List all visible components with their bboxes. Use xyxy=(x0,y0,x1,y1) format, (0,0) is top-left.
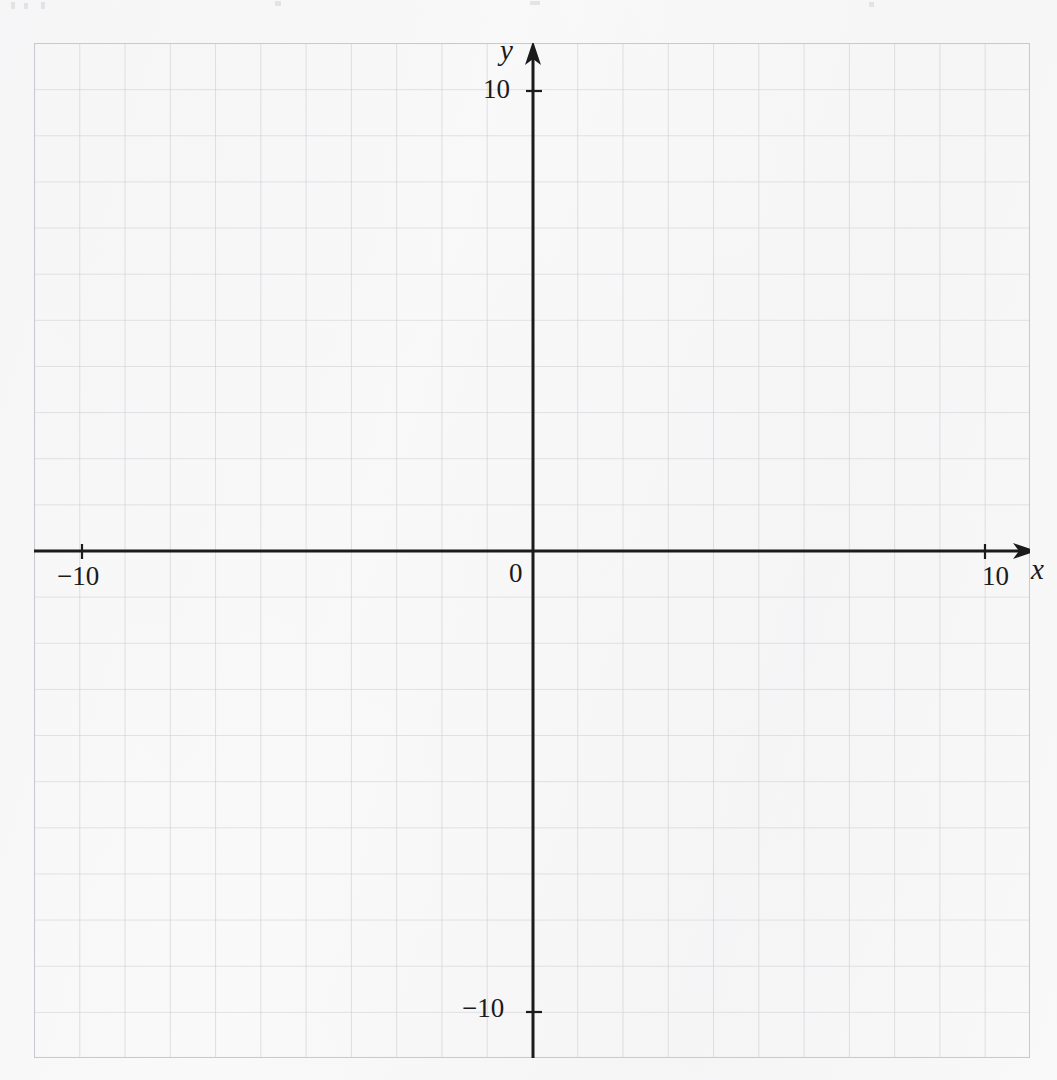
y-axis-name-label: y xyxy=(500,36,513,65)
scan-artifact xyxy=(869,2,874,7)
y-tick-label-10: 10 xyxy=(483,76,510,103)
scan-artifact xyxy=(275,1,281,6)
x-tick-label-neg10: −10 xyxy=(57,563,99,590)
origin-label: 0 xyxy=(509,560,523,587)
x-axis-name-label: x xyxy=(1031,555,1044,584)
scan-artifact xyxy=(11,2,15,9)
figure-page: y x 10 −10 10 −10 0 xyxy=(0,0,1057,1080)
scan-artifact xyxy=(24,3,28,9)
scan-artifact xyxy=(530,1,540,5)
coordinate-grid xyxy=(34,43,1030,1058)
y-tick-label-neg10: −10 xyxy=(462,995,504,1022)
axes-overlay xyxy=(34,43,1030,1058)
x-tick-label-10: 10 xyxy=(982,563,1009,590)
scan-artifact xyxy=(41,2,45,9)
